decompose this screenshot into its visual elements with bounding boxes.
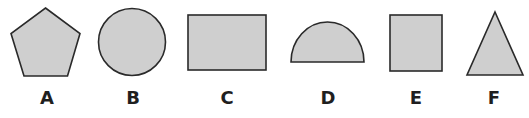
- label-e: E: [401, 87, 431, 108]
- label-b: B: [118, 87, 148, 108]
- semicircle-shape-d: [291, 22, 364, 62]
- pentagon-shape-a: [11, 8, 80, 76]
- rectangle-shape-c: [188, 15, 266, 70]
- circle-shape-b: [99, 9, 166, 76]
- label-a: A: [32, 87, 62, 108]
- label-c: C: [212, 87, 242, 108]
- label-f: F: [479, 87, 509, 108]
- square-shape-e: [390, 15, 442, 71]
- triangle-shape-f: [467, 12, 523, 75]
- shapes-figure: [0, 0, 529, 118]
- label-d: D: [313, 87, 343, 108]
